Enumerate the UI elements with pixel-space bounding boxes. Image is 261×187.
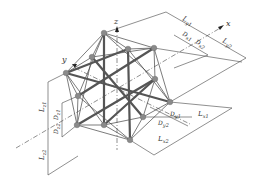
dim-label-Lz2: Lz2 (38, 150, 47, 161)
node (101, 30, 107, 36)
node (140, 114, 146, 120)
dim-label-Dy2: Dy2 (157, 119, 169, 129)
left-dimension-labels: Lz1 Lz2 Dz1 Dz2 (38, 102, 61, 161)
node (127, 137, 133, 143)
node (89, 54, 95, 60)
node (63, 70, 69, 76)
z-axis-label: z (113, 17, 119, 26)
dim-label-Dz1: Dz1 (52, 109, 61, 121)
dim-label-Ly2: Ly2 (219, 36, 234, 50)
node (152, 76, 158, 82)
dim-label-Ly1: Ly1 (179, 14, 194, 28)
lattice-diagram: z x y Ly1 Ly2 Dx1 Dx2 Lx1 Lx2 Dy1 Dy2 Lz… (0, 0, 261, 187)
node (125, 46, 131, 52)
dim-label-Dx1: Dx1 (180, 29, 195, 42)
dim-label-Lx2: Lx2 (157, 135, 169, 144)
dim-label-Dz2: Dz2 (52, 123, 61, 135)
node (167, 99, 173, 105)
dim-label-Dx2: Dx2 (193, 37, 208, 50)
node (74, 122, 80, 128)
node (101, 122, 107, 128)
node (151, 45, 157, 51)
dim-label-Dy1: Dy1 (169, 110, 181, 120)
node (75, 93, 81, 99)
y-axis-label: y (61, 55, 67, 64)
x-axis-label: x (226, 19, 231, 28)
dim-label-Lz1: Lz1 (38, 102, 47, 113)
diagram-canvas: z x y Ly1 Ly2 Dx1 Dx2 Lx1 Lx2 Dy1 Dy2 Lz… (0, 0, 261, 187)
dim-label-Lx1: Lx1 (197, 110, 209, 119)
x-axis-arrow-icon (218, 25, 224, 30)
